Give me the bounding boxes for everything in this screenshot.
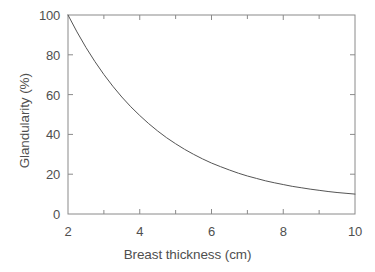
x-tick-label-2: 2 xyxy=(64,225,71,238)
y-tick-label-100: 100 xyxy=(0,9,60,22)
chart-figure: 020406080100 246810 Breast thickness (cm… xyxy=(0,0,375,272)
x-tick-label-6: 6 xyxy=(208,225,215,238)
x-axis-title: Breast thickness (cm) xyxy=(0,248,375,262)
x-tick-label-4: 4 xyxy=(136,225,143,238)
y-tick-label-0: 0 xyxy=(0,208,60,221)
x-tick-label-10: 10 xyxy=(348,225,362,238)
y-axis-title: Glandularity (%) xyxy=(18,51,32,191)
x-tick-label-8: 8 xyxy=(280,225,287,238)
